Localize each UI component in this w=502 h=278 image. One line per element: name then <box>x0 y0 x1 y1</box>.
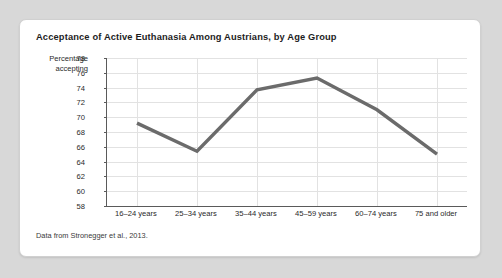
y-axis-tick-label: 60 <box>45 187 85 196</box>
x-axis-tick-label: 60–74 years <box>355 209 397 218</box>
y-axis-tick-label: 78 <box>45 54 85 63</box>
x-axis-tick-label: 25–34 years <box>175 209 217 218</box>
chart-card: Acceptance of Active Euthanasia Among Au… <box>19 19 481 257</box>
plot-area: 7876747270686664626058 <box>106 58 467 207</box>
y-axis-tick-mark <box>104 206 107 207</box>
x-axis-tick-label: 35–44 years <box>235 209 277 218</box>
source-note: Data from Stronegger et al., 2013. <box>36 231 148 240</box>
page-title: Acceptance of Active Euthanasia Among Au… <box>36 32 337 42</box>
y-axis-tick-label: 64 <box>45 158 85 167</box>
x-axis-tick-label: 45–59 years <box>295 209 337 218</box>
page-background: Acceptance of Active Euthanasia Among Au… <box>0 0 502 278</box>
y-axis-tick-label: 68 <box>45 128 85 137</box>
y-axis-tick-label: 76 <box>45 69 85 78</box>
series-line <box>137 78 437 154</box>
y-axis-tick-label: 66 <box>45 143 85 152</box>
y-axis-tick-label: 70 <box>45 113 85 122</box>
x-axis-tick-label: 75 and older <box>415 209 457 218</box>
y-axis-tick-label: 62 <box>45 172 85 181</box>
y-axis-tick-label: 58 <box>45 202 85 211</box>
y-axis-tick-label: 72 <box>45 98 85 107</box>
y-axis-tick-label: 74 <box>45 84 85 93</box>
line-series-svg <box>107 58 467 206</box>
x-axis-tick-label: 16–24 years <box>115 209 157 218</box>
plot-wrapper: 7876747270686664626058 16–24 years25–34 … <box>88 58 466 206</box>
